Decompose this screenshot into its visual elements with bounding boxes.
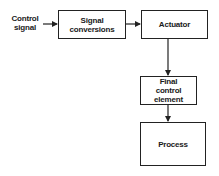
process-block: Process — [140, 122, 206, 166]
signal-conversions-block: Signal conversions — [58, 10, 126, 39]
process-label: Process — [158, 140, 188, 149]
actuator-block: Actuator — [141, 10, 208, 39]
signal-conversions-label: Signal conversions — [70, 16, 115, 34]
control-signal-label: Control signal — [6, 14, 44, 32]
final-control-element-block: Final control element — [140, 76, 197, 105]
actuator-label: Actuator — [159, 20, 190, 29]
final-control-element-label: Final control element — [154, 77, 183, 104]
